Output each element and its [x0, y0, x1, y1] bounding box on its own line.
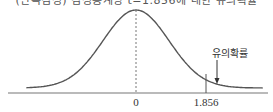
annotation-label: 유의확률 — [212, 48, 248, 59]
tick-label-center: 0 — [133, 96, 139, 108]
chart-svg: 유의확률 0 1.856 — [0, 0, 273, 112]
tick-label-critical: 1.856 — [194, 96, 219, 108]
